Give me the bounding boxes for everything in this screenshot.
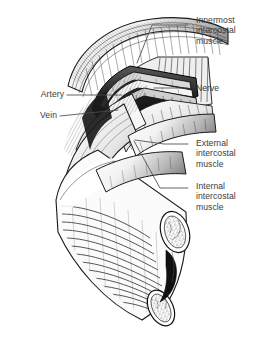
label-internal-intercostal-muscle: Internal intercostal muscle xyxy=(196,181,236,212)
anatomical-illustration: Innermost intercostal muscle Nerve Exter… xyxy=(0,0,261,349)
label-nerve: Nerve xyxy=(196,83,219,93)
rib-cage-drawing xyxy=(0,0,261,349)
label-external-intercostal-muscle: External intercostal muscle xyxy=(196,138,236,169)
label-innermost-intercostal-muscle: Innermost intercostal muscle xyxy=(196,15,236,46)
label-artery: Artery xyxy=(18,89,64,99)
label-vein: Vein xyxy=(18,110,57,120)
